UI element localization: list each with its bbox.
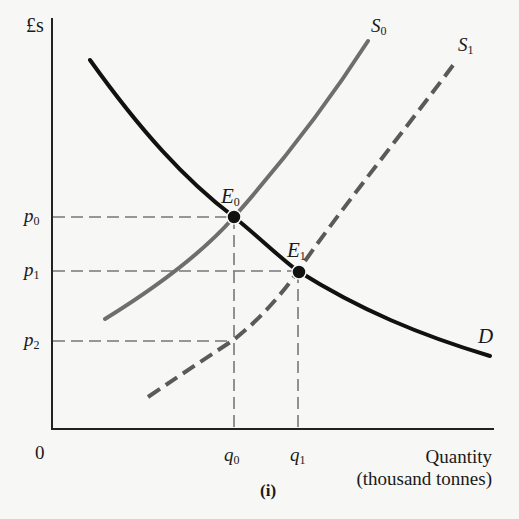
- tick-label-q0: q0: [224, 445, 240, 466]
- demand-curve-d: [90, 60, 490, 356]
- curve-label-s0: S0: [371, 16, 387, 37]
- origin-label: 0: [35, 443, 45, 462]
- equilibrium-point-e0: [227, 210, 241, 224]
- y-axis-label: £s: [26, 15, 44, 35]
- point-label-e1: E1: [287, 240, 306, 262]
- x-axis-label-line1: Quantity: [426, 447, 493, 466]
- chart-canvas: [0, 0, 519, 519]
- supply-curve-s0: [105, 41, 368, 319]
- tick-label-p2: p2: [24, 330, 40, 351]
- guide-lines: [53, 217, 298, 428]
- panel-label: (i): [260, 482, 276, 499]
- point-label-e0: E0: [221, 186, 240, 208]
- equilibrium-point-e1: [292, 265, 306, 279]
- tick-label-p1: p1: [24, 260, 40, 281]
- supply-curve-s1: [148, 60, 457, 397]
- tick-label-p0: p0: [24, 206, 40, 227]
- x-axis-label-line2: (thousand tonnes): [356, 469, 492, 488]
- curve-label-d: D: [478, 326, 493, 347]
- tick-label-q1: q1: [290, 445, 306, 466]
- curve-label-s1: S1: [458, 35, 474, 56]
